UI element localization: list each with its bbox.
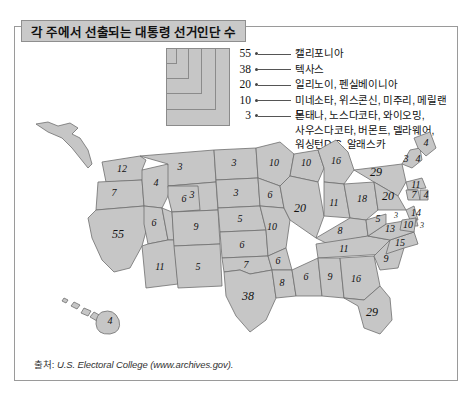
source-label: 출처:: [34, 359, 54, 370]
map-value-maine: 4: [424, 137, 429, 148]
map-value-nebraska: 5: [238, 213, 243, 224]
map-value-alabama: 9: [328, 271, 333, 282]
legend-swatch-3: [166, 48, 177, 64]
map-value-texas: 38: [241, 289, 254, 303]
legend-row: 10 미네소타, 위스콘신, 미주리, 메릴랜드: [230, 93, 456, 109]
map-value-pennsylvania: 20: [382, 189, 394, 203]
map-value-kentucky: 8: [338, 225, 343, 236]
map-value-california: 55: [112, 227, 124, 241]
map-value-north-dakota: 3: [231, 157, 237, 168]
infographic-page: 각 주에서 선출되는 대통령 선거인단 수 55 캘리포니아 38 텍사스 20: [0, 0, 474, 412]
map-value-wyoming: 3: [189, 189, 195, 200]
map-value-south-carolina: 9: [384, 253, 389, 264]
legend-value: 20: [230, 77, 251, 92]
source-citation: 출처: U.S. Electoral College (www.archives…: [34, 357, 233, 371]
state-hawaii-2: [71, 302, 80, 309]
map-value-nevada: 6: [152, 217, 157, 228]
map-value-south-dakota: 3: [233, 187, 239, 198]
map-value-idaho: 4: [154, 177, 159, 188]
map-value-maryland: 10: [403, 219, 413, 230]
map-value-delaware: 3: [419, 221, 424, 230]
map-value-kansas: 6: [240, 239, 245, 250]
map-value-virginia: 13: [385, 223, 395, 234]
legend-value: 55: [230, 46, 251, 61]
map-value-florida: 29: [366, 305, 378, 319]
map-value-dc: 3: [393, 211, 398, 220]
map-value-utah: 6: [182, 193, 187, 204]
state-oregon: [96, 180, 144, 210]
map-value-north-carolina: 15: [395, 237, 405, 248]
us-electoral-map: 12 7 55 4 6 3 3 6 11 9 5 3 3 5 6 7 38 10…: [18, 120, 448, 345]
page-title-text: 각 주에서 선출되는 대통령 선거인단 수: [31, 22, 236, 41]
map-value-arizona: 11: [155, 261, 164, 272]
source-text: U.S. Electoral College (www.archives.gov…: [54, 359, 233, 370]
map-value-montana: 3: [177, 161, 183, 172]
map-value-iowa: 6: [268, 189, 273, 200]
map-value-arkansas: 6: [276, 255, 281, 266]
page-title: 각 주에서 선출되는 대통령 선거인단 수: [21, 20, 246, 42]
map-value-new-york: 29: [370, 165, 382, 179]
map-value-michigan: 16: [331, 155, 341, 166]
map-value-colorado: 9: [194, 221, 199, 232]
map-value-rhode-island: 4: [424, 189, 429, 200]
legend-value: 10: [230, 93, 251, 108]
map-value-georgia: 16: [351, 273, 361, 284]
map-value-vermont: 3: [403, 153, 409, 164]
map-value-illinois: 20: [294, 201, 306, 215]
map-value-wisconsin: 10: [301, 157, 311, 168]
map-value-hawaii: 4: [108, 315, 113, 326]
map-value-massachusetts: 11: [411, 179, 420, 190]
map-value-ohio: 18: [357, 193, 367, 204]
leader-line-icon: [251, 77, 295, 92]
leader-line-icon: [251, 62, 295, 77]
state-hawaii-1: [62, 298, 68, 303]
map-value-minnesota: 10: [269, 157, 279, 168]
map-value-new-mexico: 5: [196, 261, 201, 272]
map-value-tennessee: 11: [339, 243, 348, 254]
legend-row: 20 일리노이, 펜실베이니아: [230, 77, 456, 93]
legend-states: 캘리포니아: [295, 46, 344, 61]
leader-line-icon: [251, 93, 295, 108]
map-value-mississippi: 6: [304, 271, 309, 282]
map-value-west-virginia: 5: [376, 213, 381, 224]
state-alaska: [36, 122, 92, 168]
state-hawaii-3: [81, 308, 91, 316]
map-value-new-hampshire: 4: [416, 153, 421, 164]
map-value-indiana: 11: [329, 197, 338, 208]
legend-states: 일리노이, 펜실베이니아: [295, 77, 397, 92]
map-value-washington: 12: [117, 163, 127, 174]
legend-row: 55 캘리포니아: [230, 46, 456, 62]
map-value-missouri: 10: [267, 221, 277, 232]
legend-states: 텍사스: [295, 62, 324, 77]
map-value-new-jersey: 14: [411, 207, 421, 218]
map-value-louisiana: 8: [280, 277, 285, 288]
legend-value: 38: [230, 62, 251, 77]
legend-row: 38 텍사스: [230, 62, 456, 78]
leader-line-icon: [251, 46, 295, 61]
